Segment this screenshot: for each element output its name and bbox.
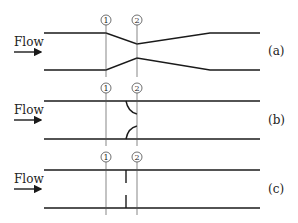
flow-meter-diagram: 1 2 Flow (a) 1 2 Flow (b) 1 2 Flow ( <box>0 0 298 223</box>
station-2-label: 2 <box>134 153 139 162</box>
panel-b-nozzle: 1 2 Flow (b) <box>14 83 285 146</box>
nozzle-bottom-contour <box>126 126 137 139</box>
panel-c-label: (c) <box>268 182 284 196</box>
panel-a-venturi: 1 2 Flow (a) <box>14 15 285 77</box>
station-1-label: 1 <box>103 16 108 25</box>
nozzle-top-contour <box>126 101 137 114</box>
station-1-label: 1 <box>103 84 108 93</box>
flow-label: Flow <box>14 103 44 117</box>
panel-b-label: (b) <box>268 113 285 127</box>
flow-label: Flow <box>14 35 44 49</box>
station-2-label: 2 <box>134 84 139 93</box>
station-1-label: 1 <box>103 153 108 162</box>
panel-a-label: (a) <box>268 44 285 58</box>
venturi-bottom-wall <box>44 58 260 70</box>
flow-label: Flow <box>14 172 44 186</box>
panel-c-orifice: 1 2 Flow (c) <box>14 152 284 215</box>
station-2-label: 2 <box>134 16 139 25</box>
venturi-top-wall <box>44 33 260 44</box>
